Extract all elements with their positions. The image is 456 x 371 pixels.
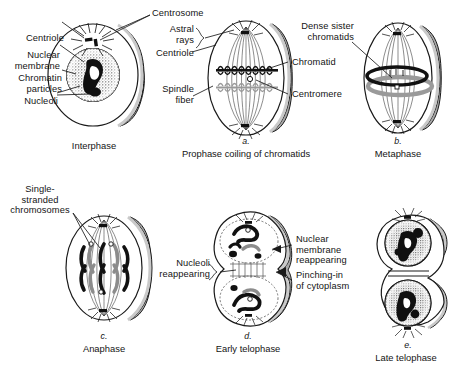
label-pinching-in-of-cytoplasm: Pinching-in of cytoplasm	[296, 270, 349, 291]
caption-metaphase-letter: b.	[352, 136, 444, 147]
caption-prophase: Prophase coiling of chromatids	[166, 148, 326, 159]
label-centriole-interphase: Centriole	[4, 33, 64, 44]
label-nuclear-membrane: Nuclear membrane	[0, 50, 60, 71]
mitosis-diagram: Centriole Nuclear membrane Chromatin par…	[0, 0, 456, 371]
caption-anaphase-letter: c.	[58, 331, 150, 342]
label-dense-sister-chromatids: Dense sister chromatids	[272, 21, 354, 42]
caption-prophase-letter: a.	[196, 136, 296, 147]
label-nuclear-membrane-reappearing: Nuclear membrane reappearing	[296, 234, 347, 266]
anaphase-cell	[66, 214, 152, 322]
caption-anaphase: Anaphase	[58, 343, 150, 354]
early-telophase-cell	[214, 212, 292, 326]
late-telophase-cell	[377, 208, 447, 338]
label-centrosome: Centrosome	[152, 8, 204, 19]
metaphase-cell	[364, 22, 441, 134]
label-centriole-prophase: Centriole	[138, 48, 194, 59]
caption-metaphase: Metaphase	[352, 148, 444, 159]
label-astral-rays: Astral rays	[150, 24, 194, 45]
label-chromatid: Chromatid	[292, 57, 336, 68]
caption-interphase: Interphase	[48, 140, 140, 151]
caption-early-telophase-letter: d.	[198, 331, 298, 342]
label-nucleoli: Nucleoli	[2, 96, 58, 107]
label-centromere: Centromere	[292, 89, 342, 100]
label-chromatin-particles: Chromatin particles	[0, 73, 62, 94]
label-spindle-fiber: Spindle fiber	[144, 84, 194, 105]
caption-early-telophase: Early telophase	[198, 343, 298, 354]
caption-late-telophase-letter: e.	[362, 340, 454, 351]
caption-late-telophase: Late telophase	[358, 352, 454, 363]
label-single-stranded-chromosomes: Single- stranded chromosomes	[4, 184, 76, 216]
label-nucleoli-reappearing: Nucleoli reappearing	[148, 258, 210, 279]
